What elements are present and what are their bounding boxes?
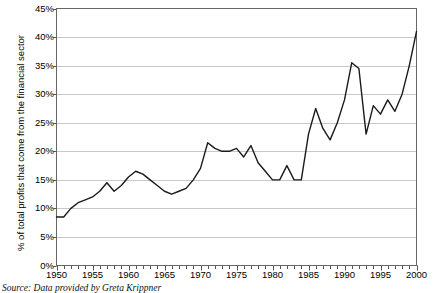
source-label: Source: bbox=[2, 283, 31, 293]
gridlines bbox=[57, 38, 417, 238]
x-tick-label: 1985 bbox=[289, 269, 329, 281]
x-tick-label: 1990 bbox=[325, 269, 365, 281]
x-tick-label: 2000 bbox=[397, 269, 437, 281]
source-text: Data provided by Greta Krippner bbox=[31, 283, 161, 293]
x-tick-label: 1975 bbox=[217, 269, 257, 281]
x-tick-label: 1965 bbox=[145, 269, 185, 281]
axis-major-ticks bbox=[53, 10, 418, 271]
x-tick-label: 1980 bbox=[253, 269, 293, 281]
data-series-line bbox=[57, 31, 417, 217]
x-tick-label: 1955 bbox=[73, 269, 113, 281]
x-tick-label: 1995 bbox=[361, 269, 401, 281]
x-axis-tick-labels: 1950195519601965197019751980198519901995… bbox=[0, 269, 437, 283]
x-tick-label: 1970 bbox=[181, 269, 221, 281]
x-tick-label: 1960 bbox=[109, 269, 149, 281]
plot-area bbox=[0, 0, 437, 293]
x-tick-label: 1950 bbox=[37, 269, 77, 281]
financial-profits-line-chart: % of total profits that come from the fi… bbox=[0, 0, 437, 293]
plot-border bbox=[57, 9, 417, 266]
source-note: Source: Data provided by Greta Krippner bbox=[2, 283, 161, 293]
